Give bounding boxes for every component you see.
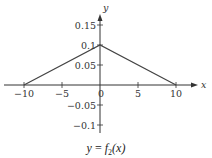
x-tick-label: −10 (14, 88, 34, 99)
x-axis-arrow-icon (191, 83, 198, 88)
caption-eq: = (92, 141, 105, 155)
y-tick-label: 0.15 (75, 20, 96, 31)
x-tick-label: 0 (98, 88, 104, 99)
axes (4, 14, 198, 133)
x-tick-label: 5 (135, 88, 141, 99)
x-axis-label: x (201, 79, 207, 90)
tick-labels: xy−10−50510−0.1−0.050.050.10.15 (14, 2, 207, 131)
chart-caption: y = f2(x) (0, 141, 212, 157)
y-axis-label: y (102, 2, 109, 13)
x-tick-label: −5 (55, 88, 69, 99)
x-tick-label: 10 (170, 88, 182, 99)
y-tick-label: −0.1 (73, 120, 96, 131)
y-tick-label: −0.05 (67, 100, 96, 111)
y-tick-label: 0.1 (81, 40, 96, 51)
y-tick-label: 0.05 (75, 60, 96, 71)
chart-plot: xy−10−50510−0.1−0.050.050.10.15 (0, 0, 212, 158)
caption-arg: (x) (112, 141, 125, 155)
y-axis-arrow-icon (98, 14, 103, 21)
